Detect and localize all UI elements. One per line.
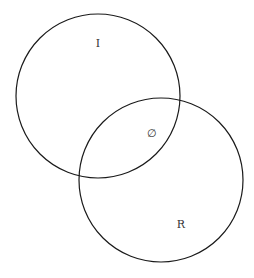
- intersection-label: ∅: [147, 127, 157, 140]
- set-r-circle: [79, 98, 243, 262]
- set-r-label: R: [177, 218, 186, 231]
- venn-diagram: I ∅ R: [0, 0, 254, 278]
- set-i-label: I: [96, 37, 100, 50]
